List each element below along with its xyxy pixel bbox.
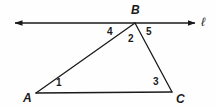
segment-ab (36, 23, 135, 93)
geometry-figure: A B C ℓ 1 2 3 4 5 (0, 0, 215, 109)
segment-ac (36, 92, 172, 93)
angle-label-3: 3 (153, 77, 159, 87)
vertex-label-a: A (23, 92, 32, 104)
line-label-l: ℓ (201, 16, 205, 28)
vertex-label-b: B (131, 4, 140, 16)
angle-label-5: 5 (146, 27, 152, 37)
vertex-label-c: C (176, 93, 185, 105)
angle-label-4: 4 (107, 27, 113, 37)
angle-label-2: 2 (128, 34, 134, 44)
angle-label-1: 1 (56, 78, 62, 88)
